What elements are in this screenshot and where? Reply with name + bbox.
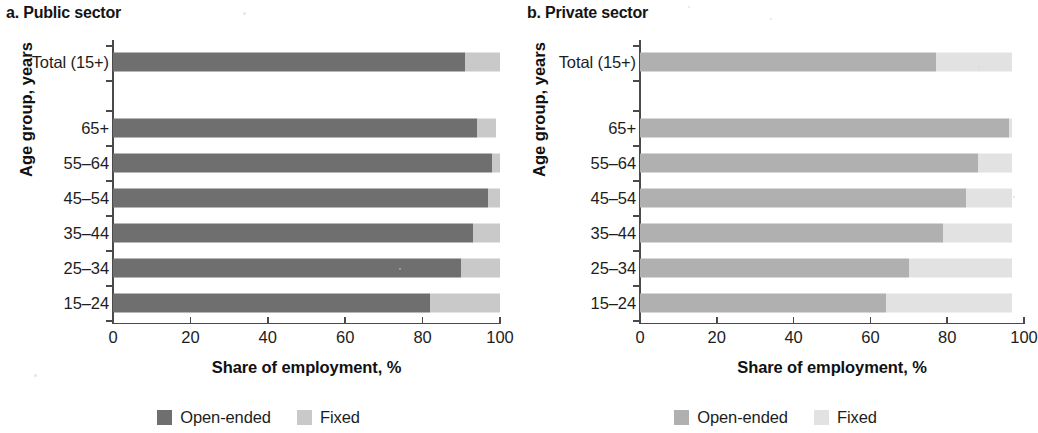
x-axis-tick: [422, 317, 424, 324]
x-axis-tick: [1023, 317, 1025, 324]
bar-segment-fixed: [488, 189, 500, 208]
bar-segment-fixed: [430, 294, 500, 313]
y-axis-category-label: 65+: [520, 119, 636, 138]
y-axis-tick: [106, 250, 113, 252]
stacked-bar: [113, 154, 500, 173]
stacked-bar: [113, 224, 500, 243]
x-axis-tick-label: 40: [259, 328, 277, 347]
y-axis-tick: [633, 215, 640, 217]
x-axis-tick-label: 20: [708, 328, 726, 347]
x-axis-tick-label: 0: [108, 328, 117, 347]
legend-label: Fixed: [837, 408, 877, 427]
bar-segment-open-ended: [113, 259, 461, 278]
y-axis-tick: [106, 45, 113, 47]
bar-segment-open-ended: [640, 119, 1009, 138]
y-axis-tick: [106, 110, 113, 112]
y-axis-category-label: Total (15+): [3, 53, 109, 72]
x-axis-title-private: Share of employment, %: [737, 358, 926, 377]
bar-segment-fixed: [461, 259, 500, 278]
x-axis-tick: [344, 317, 346, 324]
x-axis-tick-label: 20: [181, 328, 199, 347]
legend-item: Fixed: [297, 408, 360, 427]
bar-segment-open-ended: [640, 154, 978, 173]
stacked-bar: [113, 189, 500, 208]
bar-segment-open-ended: [113, 154, 492, 173]
bar-segment-fixed: [966, 189, 1012, 208]
panel-public-sector: a. Public sector Age group, years Share …: [0, 0, 517, 433]
y-axis-tick: [633, 45, 640, 47]
legend-item: Open-ended: [157, 408, 271, 427]
stacked-bar: [640, 259, 1024, 278]
y-axis-tick: [633, 80, 640, 82]
bar-segment-fixed: [473, 224, 500, 243]
panel-private-sector: b. Private sector Age group, years Share…: [517, 0, 1034, 433]
y-axis-category-label: 35–44: [3, 224, 109, 243]
x-axis-tick: [267, 317, 269, 324]
bar-segment-open-ended: [640, 259, 909, 278]
legend-label: Fixed: [320, 408, 360, 427]
bar-segment-fixed: [465, 53, 500, 72]
bar-segment-open-ended: [640, 53, 936, 72]
legend-swatch-icon: [297, 410, 312, 425]
y-axis-category-label: 25–34: [3, 259, 109, 278]
legend-item: Open-ended: [674, 408, 788, 427]
scan-speck: [34, 374, 37, 377]
x-axis-tick: [946, 317, 948, 324]
stacked-bar: [113, 259, 500, 278]
x-axis-tick: [112, 317, 114, 324]
y-axis-category-label: 45–54: [3, 189, 109, 208]
panel-title-private: b. Private sector: [527, 4, 648, 22]
stacked-bar: [640, 154, 1024, 173]
legend-swatch-icon: [157, 410, 172, 425]
y-axis-tick: [106, 80, 113, 82]
scan-speck: [243, 12, 246, 15]
bar-segment-open-ended: [113, 224, 473, 243]
stacked-bar: [640, 294, 1024, 313]
x-axis-tick: [716, 317, 718, 324]
bar-segment-fixed: [492, 154, 500, 173]
y-axis-category-label: 65+: [3, 119, 109, 138]
y-axis-tick: [106, 180, 113, 182]
x-axis-tick: [639, 317, 641, 324]
x-axis-line-public: [112, 323, 501, 325]
scan-speck: [770, 18, 772, 20]
y-axis-category-label: 55–64: [3, 154, 109, 173]
bar-segment-fixed: [1009, 119, 1013, 138]
x-axis-tick-label: 80: [938, 328, 956, 347]
legend-swatch-icon: [674, 410, 689, 425]
plot-area-public: Share of employment, % 020406080100Total…: [113, 40, 500, 323]
y-axis-tick: [633, 110, 640, 112]
y-axis-category-label: 15–24: [520, 294, 636, 313]
y-axis-line-public: [112, 40, 114, 323]
bar-segment-fixed: [943, 224, 1012, 243]
plot-area-private: Share of employment, % 020406080100Total…: [640, 40, 1024, 323]
y-axis-category-label: 25–34: [520, 259, 636, 278]
scan-speck: [978, 66, 980, 68]
bar-segment-open-ended: [113, 189, 488, 208]
legend-swatch-icon: [814, 410, 829, 425]
x-axis-tick: [499, 317, 501, 324]
x-axis-tick-label: 40: [784, 328, 802, 347]
y-axis-line-private: [639, 40, 641, 323]
legend-public: Open-endedFixed: [0, 408, 517, 427]
y-axis-tick: [106, 215, 113, 217]
panel-title-public: a. Public sector: [6, 4, 121, 22]
stacked-bar: [640, 189, 1024, 208]
bar-segment-open-ended: [640, 189, 966, 208]
x-axis-tick-label: 0: [635, 328, 644, 347]
stacked-bar: [640, 119, 1024, 138]
legend-label: Open-ended: [180, 408, 271, 427]
legend-private: Open-endedFixed: [517, 408, 1034, 427]
stacked-bar: [640, 53, 1024, 72]
x-axis-tick-label: 100: [1010, 328, 1038, 347]
y-axis-category-label: 45–54: [520, 189, 636, 208]
scan-speck: [399, 268, 401, 270]
stacked-bar: [113, 294, 500, 313]
y-axis-tick: [633, 285, 640, 287]
bar-segment-open-ended: [640, 294, 886, 313]
stacked-bar: [640, 224, 1024, 243]
bar-segment-open-ended: [113, 294, 430, 313]
legend-item: Fixed: [814, 408, 877, 427]
y-axis-tick: [633, 145, 640, 147]
y-axis-category-label: 55–64: [520, 154, 636, 173]
